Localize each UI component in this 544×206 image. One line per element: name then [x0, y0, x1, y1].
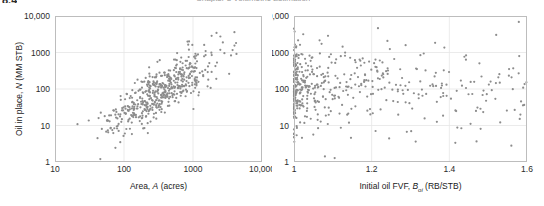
scatter-point	[335, 86, 337, 88]
scatter-point	[313, 93, 315, 95]
scatter-point	[482, 89, 484, 91]
scatter-point	[301, 102, 303, 104]
scatter-point	[354, 83, 356, 85]
scatter-point	[124, 132, 126, 134]
scatter-point	[346, 114, 348, 116]
scatter-point	[153, 116, 155, 118]
scatter-point	[387, 69, 389, 71]
scatter-point	[235, 42, 237, 44]
scatter-point	[359, 58, 361, 60]
scatter-point	[418, 93, 420, 95]
scatter-point	[125, 128, 127, 130]
scatter-point	[405, 101, 407, 103]
scatter-point	[147, 95, 149, 97]
scatter-point	[168, 83, 170, 85]
scatter-point	[308, 89, 310, 91]
scatter-point	[523, 83, 525, 85]
scatter-point	[203, 44, 205, 46]
scatter-point	[379, 78, 381, 80]
scatter-point	[160, 85, 162, 87]
scatter-point	[306, 76, 308, 78]
scatter-point	[371, 80, 373, 82]
scatter-point	[366, 110, 368, 112]
scatter-point	[489, 81, 491, 83]
scatter-chart-fvf-vs-oil-in-place: 11.21.41.6110100100010,000Initial oil FV…	[272, 0, 544, 206]
scatter-point	[304, 58, 306, 60]
scatter-point	[309, 73, 311, 75]
scatter-point	[190, 92, 192, 94]
scatter-point	[330, 53, 332, 55]
scatter-point	[204, 69, 206, 71]
scatter-point	[307, 92, 309, 94]
scatter-point	[201, 70, 203, 72]
scatter-point	[147, 85, 149, 87]
scatter-point	[297, 68, 299, 70]
scatter-point	[299, 63, 301, 65]
scatter-point	[194, 87, 196, 89]
scatter-point	[195, 83, 197, 85]
scatter-point	[141, 112, 143, 114]
scatter-point	[155, 112, 157, 114]
scatter-point	[301, 53, 303, 55]
scatter-point	[164, 97, 166, 99]
scatter-point	[310, 93, 312, 95]
scatter-point	[210, 52, 212, 54]
scatter-point	[174, 67, 176, 69]
scatter-point	[127, 119, 129, 121]
y-tick-label: 10	[280, 121, 290, 131]
scatter-point	[160, 111, 162, 113]
scatter-point	[307, 65, 309, 67]
scatter-point	[374, 66, 376, 68]
scatter-point	[148, 73, 150, 75]
scatter-point	[115, 111, 117, 113]
scatter-point	[231, 49, 233, 51]
scatter-point	[306, 102, 308, 104]
scatter-point	[335, 58, 337, 60]
scatter-point	[328, 107, 330, 109]
scatter-point	[159, 59, 161, 61]
scatter-point	[149, 87, 151, 89]
scatter-point	[210, 87, 212, 89]
scatter-point	[155, 76, 157, 78]
scatter-point	[304, 115, 306, 117]
scatter-point	[104, 115, 106, 117]
scatter-point	[115, 108, 117, 110]
scatter-point	[152, 103, 154, 105]
scatter-point	[369, 108, 371, 110]
scatter-point	[306, 110, 308, 112]
scatter-point	[122, 106, 124, 108]
scatter-point	[374, 130, 376, 132]
scatter-point	[310, 65, 312, 67]
scatter-point	[340, 127, 342, 129]
scatter-point	[296, 53, 298, 55]
scatter-point	[478, 62, 480, 64]
scatter-point	[171, 87, 173, 89]
scatter-point	[168, 69, 170, 71]
scatter-point	[207, 65, 209, 67]
scatter-point	[519, 113, 521, 115]
scatter-point	[179, 67, 181, 69]
y-axis-title: Oil in place, N (MM STB)	[14, 42, 24, 136]
y-tick-label: 1	[284, 157, 289, 167]
scatter-point	[183, 73, 185, 75]
scatter-point	[316, 67, 318, 69]
scatter-point	[121, 118, 123, 120]
scatter-point	[158, 99, 160, 101]
scatter-point	[518, 72, 520, 74]
scatter-point	[173, 74, 175, 76]
scatter-point	[402, 89, 404, 91]
scatter-point	[342, 46, 344, 48]
scatter-point	[185, 89, 187, 91]
scatter-point	[423, 52, 425, 54]
scatter-point	[510, 76, 512, 78]
scatter-point	[147, 113, 149, 115]
scatter-point	[131, 121, 133, 123]
x-tick-label: 10,000	[249, 164, 272, 174]
scatter-point	[395, 84, 397, 86]
scatter-point	[155, 118, 157, 120]
scatter-point	[442, 95, 444, 97]
scatter-point	[408, 81, 410, 83]
scatter-point	[479, 108, 481, 110]
scatter-point	[125, 113, 127, 115]
scatter-point	[354, 59, 356, 61]
